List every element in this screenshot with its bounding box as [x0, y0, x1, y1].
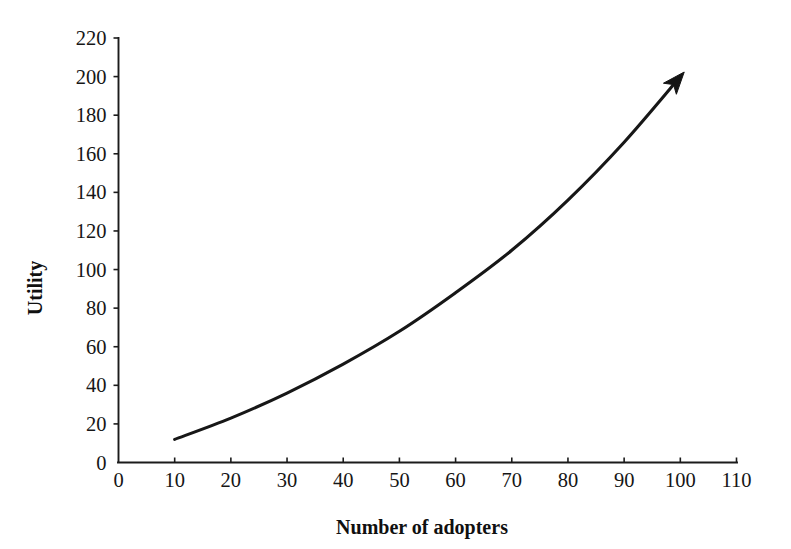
x-tick-label: 0	[113, 469, 123, 491]
x-tick-label: 20	[221, 469, 242, 491]
y-tick-label: 60	[86, 336, 107, 358]
y-tick-label: 160	[76, 143, 107, 165]
x-tick-label: 90	[614, 469, 635, 491]
y-tick-label: 200	[76, 66, 107, 88]
y-axis-title: Utility	[24, 261, 47, 315]
x-axis-title: Number of adopters	[336, 516, 508, 539]
utility-vs-adopters-chart: 020406080100120140160180200220 010203040…	[0, 0, 791, 549]
y-tick-label: 100	[76, 259, 107, 281]
x-tick-label: 10	[164, 469, 185, 491]
x-tick-label: 50	[389, 469, 410, 491]
y-tick-label: 120	[76, 220, 107, 242]
x-tick-label: 100	[665, 469, 696, 491]
x-tick-label: 110	[722, 469, 752, 491]
y-tick-label: 40	[86, 374, 107, 396]
x-tick-label: 60	[445, 469, 466, 491]
x-tick-label: 40	[333, 469, 354, 491]
y-tick-label: 220	[76, 27, 107, 49]
y-tick-label: 140	[76, 181, 107, 203]
y-tick-label: 20	[86, 413, 107, 435]
y-tick-label: 0	[96, 452, 106, 474]
y-tick-label: 180	[76, 104, 107, 126]
y-tick-label: 80	[86, 297, 107, 319]
x-tick-label: 80	[558, 469, 579, 491]
chart-figure: 020406080100120140160180200220 010203040…	[0, 0, 791, 549]
x-tick-label: 30	[277, 469, 298, 491]
x-tick-label: 70	[502, 469, 523, 491]
